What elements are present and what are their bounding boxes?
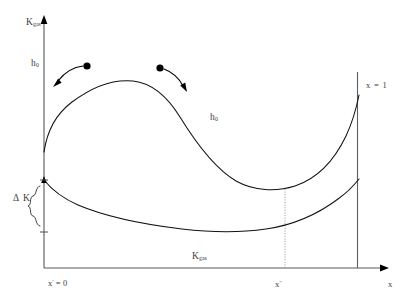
left-annotation-arrow-group bbox=[53, 62, 91, 87]
curved-arrow-right-icon bbox=[164, 69, 183, 86]
h0-axis-label: h0 bbox=[31, 59, 39, 69]
h0-curve-label: h0 bbox=[210, 113, 218, 123]
curve-h0-upper bbox=[44, 81, 359, 190]
arrow-up-icon bbox=[41, 15, 48, 24]
x-prime-zero-label: x' = 0 bbox=[48, 279, 68, 288]
x-axis bbox=[44, 265, 389, 272]
left-arrowhead-icon bbox=[53, 78, 62, 87]
curly-brace-icon bbox=[28, 186, 40, 226]
delta-k-label: Δ K bbox=[13, 194, 31, 204]
y-axis-label: Kgas bbox=[26, 18, 41, 28]
curved-arrow-left-icon bbox=[58, 66, 83, 81]
curve-kgas-lower bbox=[44, 179, 359, 232]
kgas-curve-label: Kgas bbox=[192, 252, 207, 262]
right-annotation-arrow-group bbox=[156, 64, 187, 92]
figure-canvas: Kgas h0 h0 Δ K Kgas x = 1 x' = 0 x'' x bbox=[0, 0, 404, 300]
x-axis-label: x bbox=[388, 280, 392, 289]
dot-marker-icon bbox=[156, 64, 163, 71]
dot-marker-icon bbox=[83, 62, 90, 69]
right-arrowhead-icon bbox=[180, 83, 187, 92]
x-second-label: x'' bbox=[275, 280, 281, 289]
arrow-right-icon bbox=[380, 265, 389, 272]
x-equals-one-label: x = 1 bbox=[366, 81, 388, 90]
